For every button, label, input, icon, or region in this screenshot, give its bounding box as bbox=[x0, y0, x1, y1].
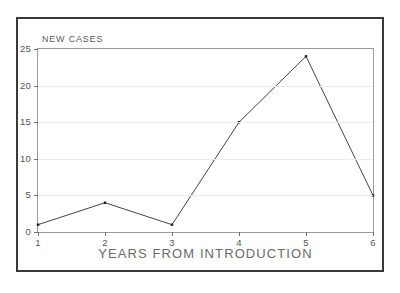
x-axis-tick bbox=[105, 232, 106, 236]
y-axis-label: 15 bbox=[14, 117, 31, 127]
x-axis-title: YEARS FROM INTRODUCTION bbox=[37, 247, 374, 260]
y-axis-tick bbox=[34, 49, 38, 50]
y-gridline bbox=[38, 86, 373, 87]
x-axis-tick bbox=[373, 232, 374, 236]
y-gridline bbox=[38, 159, 373, 160]
line-chart: NEW CASES 0510152025123456 YEARS FROM IN… bbox=[18, 19, 386, 274]
x-axis-tick bbox=[172, 232, 173, 236]
y-gridline bbox=[38, 122, 373, 123]
y-gridline bbox=[38, 195, 373, 196]
y-axis-tick bbox=[34, 195, 38, 196]
y-axis-tick bbox=[34, 159, 38, 160]
y-axis-tick bbox=[34, 86, 38, 87]
y-axis-label: 10 bbox=[14, 154, 31, 164]
x-axis-tick bbox=[38, 232, 39, 236]
x-axis-tick bbox=[306, 232, 307, 236]
y-axis-title: NEW CASES bbox=[42, 35, 103, 44]
data-point-marker bbox=[37, 223, 39, 225]
series-line-new-cases bbox=[38, 56, 373, 224]
y-axis-label: 0 bbox=[14, 227, 31, 237]
plot-frame: 0510152025123456 bbox=[37, 48, 374, 233]
data-point-marker bbox=[305, 55, 307, 57]
series-line-group bbox=[38, 49, 373, 232]
x-axis-tick bbox=[239, 232, 240, 236]
figure-outer-frame: NEW CASES 0510152025123456 YEARS FROM IN… bbox=[16, 17, 384, 272]
y-axis-label: 5 bbox=[14, 190, 31, 200]
y-axis-label: 25 bbox=[14, 44, 31, 54]
y-axis-label: 20 bbox=[14, 81, 31, 91]
data-point-marker bbox=[104, 202, 106, 204]
data-point-marker bbox=[171, 223, 173, 225]
y-axis-tick bbox=[34, 122, 38, 123]
